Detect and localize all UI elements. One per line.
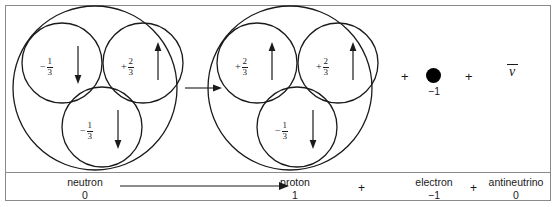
- proton-spin-arrowhead-3: [310, 140, 317, 149]
- charge-sign: −: [80, 126, 87, 136]
- neutron-quark-circle-3: [62, 87, 142, 167]
- particle-name: electron: [404, 176, 464, 189]
- proton-quark-charge-2: +23: [316, 57, 329, 77]
- charge-denominator: 3: [47, 68, 53, 77]
- label-separator-line: [6, 172, 550, 173]
- charge-sign: +: [316, 62, 323, 72]
- charge-numerator: 1: [47, 57, 53, 66]
- neutron-spin-arrowhead-2: [155, 42, 162, 51]
- electron-particle-dot: [426, 68, 441, 83]
- charge-sign: −: [40, 62, 47, 72]
- proton-quark-circle-2: [298, 23, 378, 103]
- reaction-arrow-head: [213, 84, 222, 91]
- beta-decay-diagram: −13 +23 −13 +23 +23 −13 + −1 + ν neutron…: [0, 0, 557, 207]
- proton-spin-arrowhead-1: [269, 42, 276, 51]
- label-electron: electron −1: [404, 176, 464, 201]
- particle-name: antineutrino: [482, 176, 550, 189]
- nu-glyph: ν: [492, 66, 532, 78]
- neutron-quark-charge-1: −13: [40, 57, 53, 77]
- label-proton: proton 1: [265, 176, 325, 201]
- label-antineutrino: antineutrino 0: [482, 176, 550, 201]
- particle-name: neutron: [55, 176, 115, 189]
- antineutrino-symbol: ν: [492, 64, 532, 78]
- charge-sign: +: [235, 62, 242, 72]
- neutron-quark-circle-2: [103, 23, 183, 103]
- charge-sign: −: [275, 126, 282, 136]
- charge-denominator: 3: [242, 68, 248, 77]
- neutron-quark-charge-3: −13: [80, 121, 93, 141]
- charge-numerator: 2: [128, 57, 134, 66]
- neutron-quark-charge-2: +23: [121, 57, 134, 77]
- neutron-spin-arrowhead-1: [75, 75, 82, 84]
- charge-numerator: 1: [87, 121, 93, 130]
- neutron-spin-arrowhead-3: [115, 140, 122, 149]
- charge-denominator: 3: [87, 132, 93, 141]
- charge-numerator: 2: [242, 57, 248, 66]
- particle-charge: −1: [404, 189, 464, 202]
- charge-numerator: 2: [323, 57, 329, 66]
- proton-spin-arrowhead-2: [350, 42, 357, 51]
- charge-denominator: 3: [323, 68, 329, 77]
- label-neutron: neutron 0: [55, 176, 115, 201]
- neutron-quark-circle-1: [22, 23, 102, 103]
- charge-denominator: 3: [128, 68, 134, 77]
- proton-quark-charge-3: −13: [275, 121, 288, 141]
- particle-charge: 1: [265, 189, 325, 202]
- top-plus-sign-1: +: [401, 70, 409, 83]
- bottom-plus-sign-2: +: [470, 182, 477, 194]
- particle-charge: 0: [55, 189, 115, 202]
- particle-charge: 0: [482, 189, 550, 202]
- proton-quark-charge-1: +23: [235, 57, 248, 77]
- charge-numerator: 1: [282, 121, 288, 130]
- electron-charge-value: −1: [418, 85, 450, 97]
- charge-sign: +: [121, 62, 128, 72]
- proton-quark-circle-1: [217, 23, 297, 103]
- charge-denominator: 3: [282, 132, 288, 141]
- bottom-plus-sign-1: +: [358, 182, 365, 194]
- proton-quark-circle-3: [257, 87, 337, 167]
- particle-name: proton: [265, 176, 325, 189]
- top-plus-sign-2: +: [465, 70, 473, 83]
